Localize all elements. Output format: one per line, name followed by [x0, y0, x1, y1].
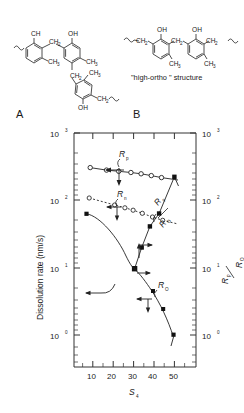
x-axis-title: S 4 [129, 387, 139, 399]
y-right-den: R [234, 262, 244, 268]
annotation-ro-label-sub: O [165, 287, 169, 292]
right-tick-labels: 10 3 10 2 10 1 10 0 [202, 128, 220, 341]
annotation-rn-arrow-down [115, 216, 119, 222]
b-label-ch2-2-sub: 2 [215, 41, 218, 46]
left-tick-1000-exp: 3 [65, 128, 68, 133]
x-axis-title-sub: 4 [136, 394, 139, 399]
b-bond-2 [183, 41, 188, 44]
ring3-methyl-bond [84, 75, 88, 80]
series-ro-markers [84, 212, 175, 337]
x-tick-10: 10 [87, 372, 96, 381]
annotation-rn-label: R [117, 189, 123, 199]
figure-svg: CH CH 3 CH 2 OH CH 3 CH 2 CH 3 OH CH 2 A [0, 0, 244, 413]
y-axis-title-right: R p R O [220, 257, 244, 284]
squiggle-left-b [124, 38, 134, 42]
label-ch3-ring1-sub: 3 [57, 62, 60, 67]
benzene-ring-b1 [153, 39, 169, 59]
y-right-num-sub: p [226, 274, 231, 277]
squiggle-right-a [109, 97, 119, 101]
squiggle-right-b [228, 39, 238, 43]
right-tick-1-exp: 0 [217, 330, 220, 335]
annotation-rpro-arrow-right-up [148, 243, 154, 247]
series-ro-curve-left [87, 214, 135, 269]
left-tick-100: 10 [50, 197, 59, 206]
panel-a-atom-labels: CH CH 3 CH 2 OH CH 3 CH 2 CH 3 OH CH 2 [31, 30, 109, 111]
benzene-ring-1-a [26, 43, 42, 63]
left-tick-1: 10 [50, 332, 59, 341]
left-tick-100-exp: 2 [65, 195, 68, 200]
left-axis-minor-ticks [74, 153, 78, 362]
benzene-ring-b2 [188, 39, 204, 59]
x-tick-labels: 10 20 30 40 50 [87, 372, 178, 381]
x-tick-30: 30 [128, 372, 137, 381]
label-ch3-ring2-sub: 3 [95, 62, 98, 67]
panel-b-atom-labels: CH 2 OH CH 3 CH 2 OH CH 3 CH 2 [136, 26, 218, 69]
label-ch2-bridge2-sub: 2 [79, 76, 82, 81]
left-tick-10-exp: 1 [65, 263, 68, 268]
right-axis-ticks [190, 133, 196, 335]
annotation-rn: R n [106, 189, 127, 221]
x-tick-20: 20 [107, 372, 116, 381]
label-ch-ring1: CH [31, 30, 41, 37]
x-tick-50: 50 [169, 372, 178, 381]
benzene-ring-2-a [64, 43, 80, 63]
b1-methyl-bond [169, 54, 172, 59]
annotation-rp-arrow-down [117, 180, 122, 186]
bottom-axis-ticks [93, 361, 175, 367]
series-ro-left-arrow-head [85, 291, 91, 295]
ring3-double-bond-3 [83, 94, 90, 97]
right-tick-10: 10 [202, 265, 211, 274]
right-tick-100: 10 [202, 197, 211, 206]
x-axis-title-main: S [129, 387, 135, 397]
label-oh-ring3: OH [78, 104, 88, 111]
right-tick-1: 10 [202, 332, 211, 341]
annotation-ro-arrow-down [146, 308, 150, 314]
squiggle-left-a [14, 46, 24, 50]
b-label-ch3-1-sub: 3 [178, 64, 181, 69]
panel-b-caption: "high-ortho " structure [131, 73, 202, 82]
benzene-ring-3-a [75, 80, 92, 99]
right-tick-1000: 10 [202, 130, 211, 139]
left-tick-1-exp: 0 [65, 330, 68, 335]
annotation-rp-label-sub: p [126, 156, 129, 161]
b-label-ch2-1-sub: 2 [180, 41, 183, 46]
annotation-rn-label-sub: n [124, 196, 127, 201]
series-ro-curve-right [135, 269, 174, 337]
annotation-rp: R p [105, 149, 129, 186]
label-oh-ring2: OH [68, 30, 78, 37]
b-label-ch3-2-sub: 3 [213, 64, 216, 69]
left-tick-10: 10 [50, 265, 59, 274]
annotation-ro-arrow-left [136, 297, 142, 301]
right-tick-1000-exp: 3 [217, 128, 220, 133]
left-axis-ticks [74, 133, 80, 335]
b-label-oh-2: OH [192, 26, 202, 33]
annotation-rp-leader [118, 159, 120, 167]
right-tick-10-exp: 1 [217, 263, 220, 268]
series-ro-left-arrow-leader [101, 284, 115, 293]
ring3-double-bond [77, 85, 78, 93]
label-ch2-bridge3-sub: 2 [106, 99, 109, 104]
figure-root: CH CH 3 CH 2 OH CH 3 CH 2 CH 3 OH CH 2 A [0, 0, 244, 413]
right-axis-minor-ticks [192, 153, 196, 362]
b-label-ch2-left-sub: 2 [145, 41, 148, 46]
right-tick-100-exp: 2 [217, 195, 220, 200]
annotation-rpro-arrow-right-low [146, 271, 152, 275]
label-ch3-ring3-sub: 3 [98, 73, 101, 78]
b-label-oh-1: OH [157, 26, 167, 33]
x-tick-40: 40 [148, 372, 157, 381]
y-right-den-sub: O [240, 257, 244, 261]
left-tick-labels: 10 3 10 2 10 1 10 0 [50, 128, 68, 341]
series-ro [84, 212, 175, 346]
series-rp [88, 165, 178, 180]
left-tick-1000: 10 [50, 130, 59, 139]
series-rp-markers [88, 165, 164, 179]
annotation-rp-over-ro: R p R O [137, 193, 172, 275]
annotation-rn-arrow-left [106, 205, 112, 209]
top-axis-ticks [93, 133, 175, 139]
b2-methyl-bond [204, 54, 207, 59]
panel-letter-a: A [16, 108, 24, 120]
annotation-rp-label: R [119, 149, 125, 159]
annotation-ro-label: R [158, 280, 164, 290]
y-right-num: R [220, 278, 230, 284]
b-bond-1 [148, 41, 153, 44]
